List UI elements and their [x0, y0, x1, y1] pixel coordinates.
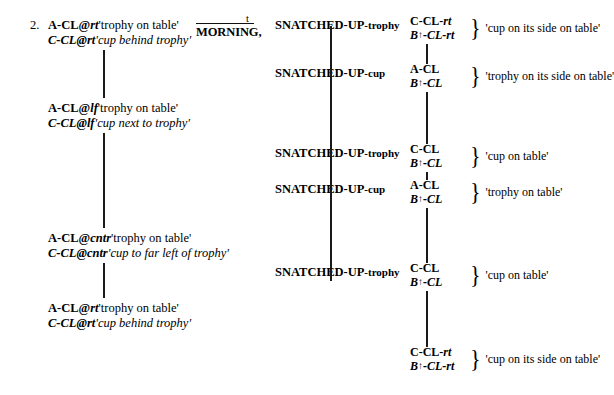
- classifier-gloss: A-CL@: [48, 101, 90, 115]
- timeline-stroke: [330, 26, 332, 281]
- classifier-block: A-CL@rt'trophy on table'C-CL@rt'cup behi…: [48, 301, 191, 331]
- locus-tag: rt: [90, 18, 98, 32]
- classifier-gloss: C-CL: [410, 261, 439, 275]
- locus-tag: rt: [87, 33, 95, 47]
- classifier-line-primary: A-CL@rt'trophy on table': [48, 18, 191, 33]
- classifier-gloss: -CL: [423, 275, 442, 289]
- classifier-gloss: -CL-: [423, 28, 446, 42]
- sign-gloss-tail: -trophy: [364, 266, 399, 278]
- meaning-gloss: 'trophy on table': [485, 185, 562, 200]
- at-symbol: @: [76, 33, 86, 47]
- classifier-stack: C-CL-rtB↑-CL-rt: [410, 14, 468, 42]
- classifier-top-line: C-CL-rt: [410, 14, 468, 28]
- meaning-gloss: 'trophy on its side on table': [485, 69, 614, 84]
- locus-tag: rt: [443, 14, 451, 28]
- meaning-gloss: 'cup on table': [485, 268, 548, 283]
- classifier-gloss: A-CL: [410, 62, 439, 76]
- snatched-up-gloss: SNATCHED-UP-trophy: [275, 146, 400, 161]
- sign-gloss-main: SNATCHED-UP: [275, 66, 364, 80]
- meaning-gloss: 'cup on its side on table': [485, 352, 600, 367]
- sign-gloss-main: SNATCHED-UP: [275, 146, 364, 160]
- classifier-pair-group: C-CLB↑-CL}'cup on table': [410, 142, 548, 170]
- sign-gloss-main: SNATCHED-UP: [275, 265, 364, 279]
- classifier-line-secondary: C-CL@cntr'cup to far left of trophy': [48, 246, 229, 261]
- curly-brace-icon: }: [470, 179, 481, 205]
- classifier-stack: C-CLB↑-CL: [410, 261, 468, 289]
- classifier-gloss: C-CL-: [410, 345, 443, 359]
- topic-marker-bar: t: [196, 14, 262, 25]
- meaning-gloss: 'cup behind trophy': [95, 316, 191, 330]
- meaning-gloss: 'cup next to trophy': [95, 116, 190, 130]
- classifier-gloss: -CL: [423, 192, 442, 206]
- classifier-gloss: C-CL: [410, 142, 439, 156]
- classifier-block: A-CL@cntr'trophy on table'C-CL@cntr'cup …: [48, 231, 229, 261]
- classifier-top-line: C-CL: [410, 142, 468, 156]
- sign-gloss-tail: -trophy: [364, 19, 399, 31]
- sign-gloss-main: SNATCHED-UP: [275, 182, 364, 196]
- curly-brace-icon: }: [470, 143, 481, 169]
- handshape-label: B: [410, 359, 418, 373]
- classifier-pair-group: C-CL-rtB↑-CL-rt}'cup on its side on tabl…: [410, 14, 600, 42]
- timeline-stroke: [103, 50, 105, 98]
- curly-brace-icon: }: [470, 15, 481, 41]
- locus-tag: rt: [87, 316, 95, 330]
- classifier-top-line: C-CL-rt: [410, 345, 468, 359]
- classifier-stack: C-CL-rtB↑-CL-rt: [410, 345, 468, 373]
- classifier-line-secondary: C-CL@rt'cup behind trophy': [48, 316, 191, 331]
- timeline-stroke: [103, 263, 105, 298]
- sign-gloss-tail: -trophy: [364, 147, 399, 159]
- locus-tag: cntr: [87, 246, 108, 260]
- curly-brace-icon: }: [470, 63, 481, 89]
- timeline-stroke: [426, 208, 428, 263]
- morning-sign-group: t MORNING,: [196, 14, 262, 40]
- locus-tag: cntr: [90, 231, 111, 245]
- classifier-gloss: A-CL@: [48, 301, 90, 315]
- handshape-label: B: [410, 28, 418, 42]
- classifier-gloss: A-CL: [410, 178, 439, 192]
- curly-brace-icon: }: [470, 346, 481, 372]
- classifier-pair-group: C-CL-rtB↑-CL-rt}'cup on its side on tabl…: [410, 345, 600, 373]
- snatched-up-gloss: SNATCHED-UP-trophy: [275, 265, 400, 280]
- classifier-bottom-line: B↑-CL: [410, 192, 468, 206]
- classifier-gloss: C-CL: [48, 33, 76, 47]
- locus-tag: rt: [446, 359, 454, 373]
- classifier-gloss: -CL-: [423, 359, 446, 373]
- classifier-gloss: C-CL: [48, 246, 76, 260]
- classifier-line-primary: A-CL@lf'trophy on table': [48, 101, 190, 116]
- classifier-gloss: C-CL: [48, 116, 76, 130]
- classifier-stack: C-CLB↑-CL: [410, 142, 468, 170]
- meaning-gloss: 'trophy on table': [99, 301, 179, 315]
- classifier-pair-group: C-CLB↑-CL}'cup on table': [410, 261, 548, 289]
- timeline-stroke: [426, 291, 428, 347]
- classifier-gloss: C-CL-: [410, 14, 443, 28]
- classifier-top-line: A-CL: [410, 178, 468, 192]
- classifier-line-secondary: C-CL@lf'cup next to trophy': [48, 116, 190, 131]
- locus-tag: rt: [90, 301, 98, 315]
- sign-gloss-tail: -cup: [364, 67, 385, 79]
- classifier-pair-group: A-CLB↑-CL}'trophy on its side on table': [410, 62, 614, 90]
- at-symbol: @: [76, 116, 86, 130]
- classifier-line-primary: A-CL@rt'trophy on table': [48, 301, 191, 316]
- classifier-gloss: A-CL@: [48, 18, 90, 32]
- locus-tag: lf: [90, 101, 98, 115]
- locus-tag: rt: [443, 345, 451, 359]
- classifier-pair-group: A-CLB↑-CL}'trophy on table': [410, 178, 562, 206]
- classifier-bottom-line: B↑-CL: [410, 275, 468, 289]
- sign-gloss-main: SNATCHED-UP: [275, 18, 364, 32]
- classifier-block: A-CL@lf'trophy on table'C-CL@lf'cup next…: [48, 101, 190, 131]
- classifier-gloss: A-CL@: [48, 231, 90, 245]
- classifier-bottom-line: B↑-CL: [410, 76, 468, 90]
- classifier-stack: A-CLB↑-CL: [410, 62, 468, 90]
- classifier-stack: A-CLB↑-CL: [410, 178, 468, 206]
- timeline-stroke: [426, 44, 428, 64]
- at-symbol: @: [76, 246, 86, 260]
- classifier-gloss: -CL: [423, 156, 442, 170]
- classifier-bottom-line: B↑-CL: [410, 156, 468, 170]
- handshape-label: B: [410, 156, 418, 170]
- curly-brace-icon: }: [470, 262, 481, 288]
- sign-gloss-tail: -cup: [364, 183, 385, 195]
- meaning-gloss: 'cup on table': [485, 149, 548, 164]
- example-number: 2.: [30, 18, 39, 33]
- classifier-gloss: C-CL: [48, 316, 76, 330]
- classifier-top-line: A-CL: [410, 62, 468, 76]
